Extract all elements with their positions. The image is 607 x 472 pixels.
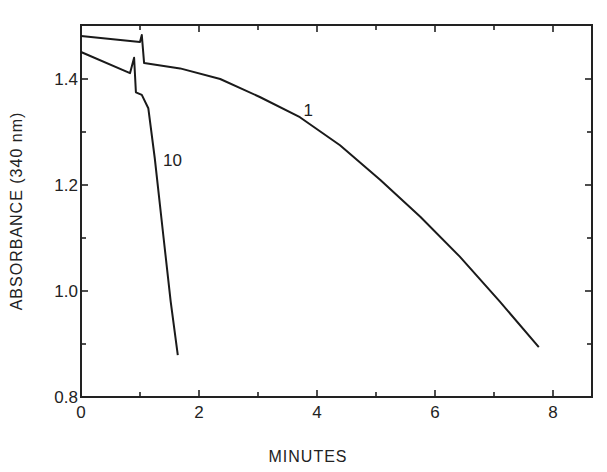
tick-labels: 024680.81.01.21.4 — [54, 70, 557, 422]
curve-label-10: 10 — [163, 151, 182, 170]
curve-1 — [81, 35, 539, 347]
curve-label-1: 1 — [303, 101, 312, 120]
x-axis-title: MINUTES — [269, 448, 348, 465]
x-tick-label: 8 — [548, 403, 557, 422]
data-curves — [81, 35, 539, 355]
axis-ticks — [81, 25, 592, 397]
x-tick-label: 2 — [194, 403, 203, 422]
y-tick-label: 1.2 — [54, 176, 78, 195]
y-axis-title: ABSORBANCE (340 nm) — [8, 112, 25, 311]
absorbance-chart: 024680.81.01.21.4 110 MINUTES ABSORBANCE… — [0, 0, 607, 472]
y-tick-label: 1.0 — [54, 282, 78, 301]
curve-10 — [81, 52, 178, 355]
x-tick-label: 6 — [430, 403, 439, 422]
x-tick-label: 4 — [312, 403, 321, 422]
y-tick-label: 1.4 — [54, 70, 78, 89]
y-tick-label: 0.8 — [54, 388, 78, 407]
plot-frame — [81, 25, 592, 397]
